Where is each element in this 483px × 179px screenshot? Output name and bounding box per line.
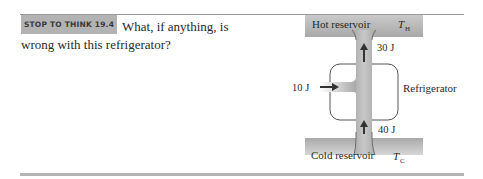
cold-temp-subscript: C xyxy=(400,157,405,165)
cold-temp-symbol: T xyxy=(393,150,400,162)
work-in-label: 10 J xyxy=(292,82,309,93)
refrigerator-diagram: Hot reservoir T H 30 J 10 J Refrigerator… xyxy=(290,0,483,179)
heat-in-label: 40 J xyxy=(378,124,395,135)
question-text: What, if anything, is wrong with this re… xyxy=(21,18,261,54)
cold-reservoir-label: Cold reservoir xyxy=(311,149,375,161)
refrigerator-label: Refrigerator xyxy=(403,82,457,94)
bottom-rule xyxy=(20,173,464,176)
heat-out-label: 30 J xyxy=(377,42,394,53)
work-input-pipe xyxy=(320,76,356,94)
hot-reservoir-label: Hot reservoir xyxy=(312,18,371,30)
hot-temp-symbol: T xyxy=(398,18,405,30)
hot-temp-subscript: H xyxy=(405,25,410,33)
